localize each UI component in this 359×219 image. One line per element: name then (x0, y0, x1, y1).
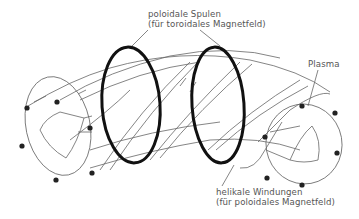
leader-line-plasma (308, 70, 318, 106)
left-plasma-shape (40, 112, 84, 158)
helical-windings-label-line1: helikale Windungen (216, 187, 335, 197)
helical-winding-4 (70, 90, 130, 140)
stellarator-diagram: poloidale Spulen (für toroidales Magnetf… (0, 0, 359, 219)
helical-windings-label: helikale Windungen (für poloidales Magne… (216, 187, 335, 207)
poloidal-coils-label-line1: poloidale Spulen (148, 9, 266, 19)
leader-line-coil-left (132, 30, 148, 46)
conductor-dots (19, 99, 339, 187)
leader-line-coil-right (200, 30, 220, 46)
leader-line-helix (222, 165, 234, 186)
poloidal-coils-label: poloidale Spulen (für toroidales Magnetf… (148, 9, 266, 29)
left-end-cross-section (16, 70, 99, 181)
poloidal-coils-label-line2: (für toroidales Magnetfeld) (148, 19, 266, 29)
plasma-label: Plasma (308, 59, 340, 69)
helical-winding-1 (100, 62, 190, 170)
tube-top-outline (28, 56, 330, 107)
helical-windings-label-line2: (für poloidales Magnetfeld) (216, 197, 335, 207)
right-plasma-shape (290, 126, 319, 162)
